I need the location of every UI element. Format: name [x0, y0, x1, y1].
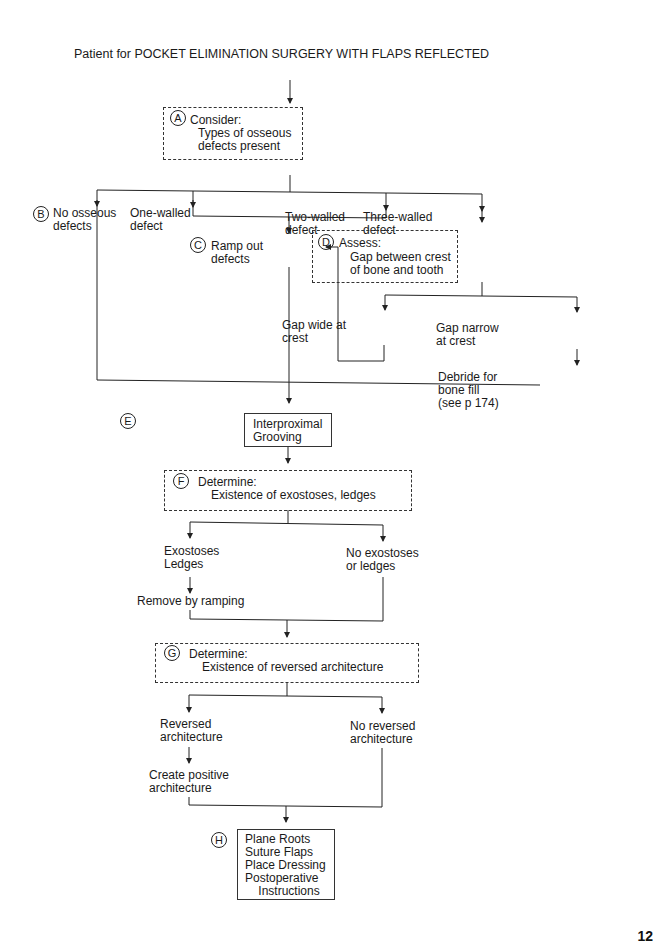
- node-remove-by-ramping: Remove by ramping: [137, 595, 244, 608]
- node-d-letter: D: [318, 234, 334, 250]
- node-gap-wide: Gap wide at crest: [282, 319, 346, 345]
- node-f-letter: F: [173, 473, 189, 489]
- node-h-letter: H: [211, 832, 227, 848]
- node-no-exostoses: No exostoses or ledges: [346, 547, 419, 573]
- node-f-text: Existence of exostoses, ledges: [211, 489, 376, 502]
- node-d-text: Gap between crest of bone and tooth: [350, 251, 451, 277]
- node-b-text: No osseous defects: [53, 207, 116, 233]
- branch-d: [385, 295, 577, 297]
- node-d-heading: Assess:: [339, 237, 381, 250]
- node-e-letter: E: [120, 413, 136, 429]
- node-g-text: Existence of reversed architecture: [202, 661, 383, 674]
- page-number: 12: [637, 928, 653, 944]
- node-debride: Debride for bone fill (see p 174): [438, 371, 499, 410]
- branch-f: [190, 522, 383, 525]
- node-no-reversed: No reversed architecture: [350, 720, 415, 746]
- flowchart-title: Patient for POCKET ELIMINATION SURGERY W…: [74, 48, 489, 61]
- node-reversed: Reversed architecture: [160, 718, 223, 744]
- node-gap-narrow: Gap narrow at crest: [436, 322, 499, 348]
- node-a-letter: A: [170, 110, 186, 126]
- node-one-walled: One-walled defect: [130, 207, 191, 233]
- node-g-letter: G: [164, 645, 180, 661]
- node-create-positive: Create positive architecture: [149, 769, 229, 795]
- branch-g: [189, 695, 382, 697]
- node-e-text: Interproximal Grooving: [253, 418, 322, 444]
- node-b-letter: B: [33, 206, 49, 222]
- node-c-letter: C: [190, 237, 206, 253]
- node-exostoses: Exostoses Ledges: [164, 545, 219, 571]
- node-h-text: Plane Roots Suture Flaps Place Dressing …: [245, 833, 326, 898]
- node-a-text: Types of osseous defects present: [198, 127, 291, 153]
- node-c-text: Ramp out defects: [211, 240, 263, 266]
